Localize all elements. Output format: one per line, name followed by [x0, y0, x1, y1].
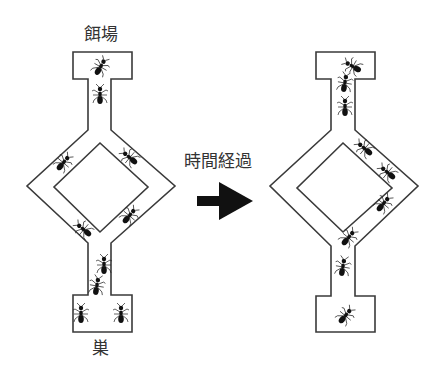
ant — [333, 255, 352, 277]
ant — [117, 202, 142, 228]
ant — [374, 159, 400, 184]
ant — [92, 84, 108, 104]
ant — [336, 224, 361, 250]
maze-after — [270, 52, 418, 332]
food-source-label: 餌場 — [84, 26, 118, 43]
ant — [337, 96, 353, 116]
ant — [333, 302, 358, 328]
maze-before — [27, 52, 175, 332]
nest-label: 巣 — [92, 340, 109, 357]
maze-outline-after — [270, 52, 418, 332]
ant — [116, 144, 142, 169]
time-arrow — [197, 182, 253, 220]
ant — [96, 254, 112, 274]
ant — [339, 54, 364, 78]
inner-diamond-after — [297, 143, 392, 232]
ant — [351, 135, 377, 160]
ant — [87, 274, 106, 296]
ant — [335, 71, 354, 93]
ant — [73, 303, 89, 323]
ant — [113, 303, 129, 323]
time-elapsed-label: 時間経過 — [184, 153, 252, 170]
ant — [89, 53, 113, 78]
ants-before — [51, 53, 142, 323]
diagram-canvas — [0, 0, 441, 376]
